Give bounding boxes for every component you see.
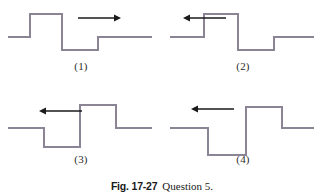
figure-caption: Fig. 17-27Question 5. xyxy=(0,176,324,193)
figure-caption-text: Question 5. xyxy=(162,180,213,192)
wave-panel-1: (1) xyxy=(0,2,162,90)
panel-label-1: (1) xyxy=(0,60,162,72)
wave-panel-3: (3) xyxy=(0,95,162,183)
panel-label-4: (4) xyxy=(162,153,324,165)
figure-container: (1) (2) (3) xyxy=(0,0,324,193)
panel-label-3: (3) xyxy=(0,153,162,165)
wave-pulse-path-2 xyxy=(170,14,314,50)
direction-arrow-right-icon xyxy=(78,14,121,21)
wave-pulse-path-4 xyxy=(170,107,314,155)
panel-label-2: (2) xyxy=(162,60,324,72)
wave-pulse-path-1 xyxy=(8,14,152,50)
figure-number: Fig. 17-27 xyxy=(111,180,157,192)
wave-panel-2: (2) xyxy=(162,2,324,90)
direction-arrow-left-icon xyxy=(39,107,82,114)
wave-panel-4: (4) xyxy=(162,95,324,183)
direction-arrow-left-icon xyxy=(191,105,234,112)
